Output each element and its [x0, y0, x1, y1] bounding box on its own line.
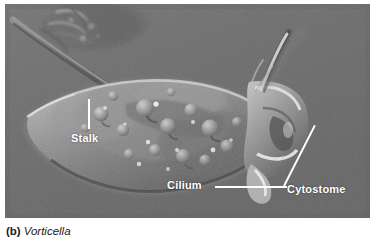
callout-label-stalk: Stalk [71, 133, 98, 144]
figure-caption: (b)Vorticella [6, 225, 71, 237]
cilium-leader-line [215, 186, 287, 188]
stalk-leader-line [88, 99, 90, 129]
caption-row: (b)Vorticella LM 25 µm [0, 218, 376, 249]
caption-panel-letter: (b) [6, 225, 21, 237]
callout-label-cilium: Cilium [167, 180, 202, 191]
figure-panel: Stalk Cilium Cytostome (b)Vorticella LM … [0, 0, 376, 249]
caption-species-name: Vorticella [24, 225, 71, 237]
callout-label-cytostome: Cytostome [287, 184, 346, 195]
